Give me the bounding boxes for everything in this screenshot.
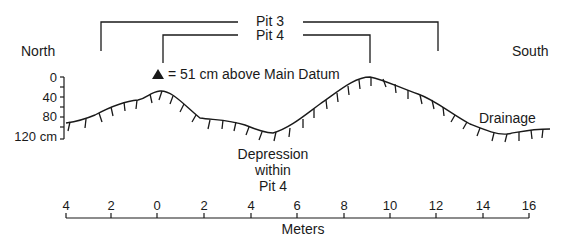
profile-hachures [68,77,543,142]
x-tick-label: 14 [476,198,490,213]
x-tick-label: 8 [340,198,347,213]
x-tick-label: 4 [62,198,69,213]
depression-label-line3: Pit 4 [259,178,287,194]
x-tick-label: 4 [247,198,254,213]
south-label: South [512,43,549,59]
y-tick-80: 80 [43,109,57,124]
x-tick-label: 16 [522,198,536,213]
north-label: North [21,43,55,59]
profile-diagram: North South Pit 3 Pit 4 = 51 cm above Ma… [0,0,582,246]
ground-profile-line [66,77,550,134]
drainage-label: Drainage [479,110,536,126]
depression-label-line1: Depression [238,146,309,162]
x-tick-label: 10 [383,198,397,213]
x-tick-label: 12 [429,198,443,213]
x-tick-label: 2 [107,198,114,213]
y-tick-120: 120 cm [14,129,57,144]
y-axis [60,77,64,139]
datum-triangle-icon [152,69,164,79]
y-tick-0: 0 [50,70,57,85]
x-tick-label: 2 [200,198,207,213]
x-tick-label: 0 [153,198,160,213]
y-tick-40: 40 [43,90,57,105]
depression-label-line2: within [254,162,291,178]
x-tick-label: 6 [293,198,300,213]
x-axis [66,213,529,218]
pit-4-label: Pit 4 [256,27,284,43]
datum-legend-text: = 51 cm above Main Datum [168,66,340,82]
x-axis-title: Meters [282,221,325,237]
